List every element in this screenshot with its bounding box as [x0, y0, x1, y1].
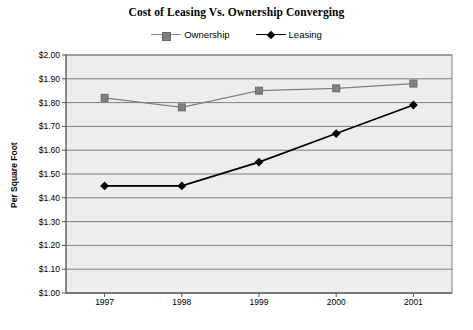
y-axis-tick-label: $1.20: [14, 241, 60, 250]
data-point-marker: [178, 104, 185, 111]
x-axis-tick-label: 2000: [311, 297, 361, 307]
data-point-marker: [333, 85, 340, 92]
y-axis-tick-label: $1.30: [14, 218, 60, 227]
data-point-marker: [101, 94, 108, 101]
data-point-marker: [256, 87, 263, 94]
y-axis-tick-label: $2.00: [14, 51, 60, 60]
x-axis-tick-label: 1997: [80, 297, 130, 307]
y-axis-tick-label: $1.10: [14, 265, 60, 274]
x-axis-tick-label: 1998: [157, 297, 207, 307]
y-axis-tick-label: $1.60: [14, 146, 60, 155]
data-point-marker: [410, 80, 417, 87]
plot-area: $2.00$1.90$1.80$1.70$1.60$1.50$1.40$1.30…: [0, 0, 473, 330]
x-axis-tick-label: 2001: [388, 297, 438, 307]
y-axis-tick-label: $1.90: [14, 75, 60, 84]
y-axis-tick-label: $1.00: [14, 289, 60, 298]
chart-container: Cost of Leasing Vs. Ownership Converging…: [0, 0, 473, 330]
y-axis-tick-label: $1.70: [14, 122, 60, 131]
y-axis-tick-label: $1.40: [14, 194, 60, 203]
y-axis-tick-label: $1.80: [14, 99, 60, 108]
chart-svg: [0, 0, 473, 330]
x-axis-tick-label: 1999: [234, 297, 284, 307]
y-axis-tick-label: $1.50: [14, 170, 60, 179]
